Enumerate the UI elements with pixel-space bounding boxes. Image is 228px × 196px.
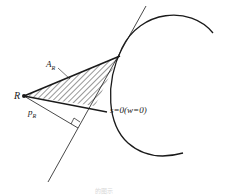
curve-arc [111, 15, 213, 156]
area-leader-line [58, 68, 70, 79]
point-R-label: R [14, 91, 20, 101]
area-A-subscript: R [52, 65, 56, 71]
distance-p-label: pR [28, 108, 36, 119]
right-angle-marker [71, 118, 80, 124]
figure-caption: 的图示 [95, 186, 113, 195]
curve-condition-label: s=0(w=0) [110, 106, 147, 115]
geometry-figure [0, 0, 228, 196]
point-R-dot [22, 94, 26, 98]
area-A-label: AR [46, 60, 55, 71]
distance-p-subscript: R [33, 113, 37, 119]
